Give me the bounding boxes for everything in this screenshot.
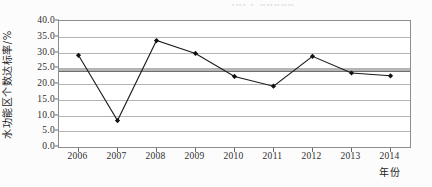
y-tick-label: 10.0 — [37, 110, 55, 120]
data-point-marker — [154, 38, 159, 43]
chart-figure: 。。。。 。 。。。。。。。。。。 水功能区个数达标率/% 0.05.010.0… — [0, 0, 432, 187]
data-point-marker — [115, 118, 120, 123]
y-tick-label: 5.0 — [42, 125, 55, 135]
plot-area — [58, 20, 411, 148]
x-tick-label: 2008 — [145, 151, 165, 161]
x-tick-label: 2012 — [301, 151, 321, 161]
x-tick-mark — [351, 148, 352, 152]
y-tick-label: 0.0 — [42, 141, 55, 151]
x-tick-mark — [78, 148, 79, 152]
x-tick-label: 2011 — [263, 151, 283, 161]
x-tick-mark — [156, 148, 157, 152]
y-axis-ticks: 0.05.010.015.020.025.030.035.040.0 — [0, 20, 55, 148]
x-tick-label: 2014 — [379, 151, 399, 161]
x-tick-label: 2009 — [184, 151, 204, 161]
x-tick-label: 2007 — [106, 151, 126, 161]
y-tick-label: 40.0 — [37, 15, 55, 25]
scan-artifact-text: 。。。。 。 。。。。。。。。。。 — [232, 0, 432, 7]
data-point-marker — [388, 73, 393, 78]
data-point-marker — [232, 74, 237, 79]
data-point-marker — [193, 51, 198, 56]
data-point-marker — [349, 70, 354, 75]
x-tick-label: 2006 — [67, 151, 87, 161]
x-tick-mark — [312, 148, 313, 152]
x-tick-mark — [273, 148, 274, 152]
x-axis-title: 年份 — [379, 164, 400, 179]
y-tick-label: 20.0 — [37, 78, 55, 88]
y-tick-label: 15.0 — [37, 94, 55, 104]
x-tick-label: 2010 — [223, 151, 243, 161]
y-tick-label: 30.0 — [37, 47, 55, 57]
y-tick-label: 25.0 — [37, 62, 55, 72]
data-series-line — [59, 21, 410, 147]
data-point-marker — [76, 53, 81, 58]
y-tick-label: 35.0 — [37, 31, 55, 41]
x-tick-label: 2013 — [340, 151, 360, 161]
x-tick-mark — [390, 148, 391, 152]
x-tick-mark — [234, 148, 235, 152]
series-polyline — [79, 41, 391, 121]
x-tick-mark — [117, 148, 118, 152]
x-tick-mark — [195, 148, 196, 152]
